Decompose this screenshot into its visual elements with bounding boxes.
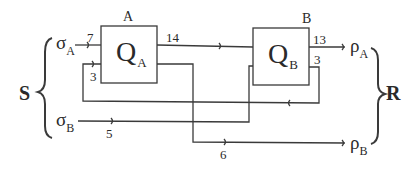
input-sigma-b: σB: [56, 110, 74, 134]
edge-sigmaB-to-B: [78, 66, 253, 122]
rate-A-B: 14: [166, 31, 179, 44]
edge-A-to-B: [157, 45, 253, 47]
input-sigma-a: σA: [56, 33, 75, 57]
left-brace: [38, 38, 52, 138]
rate-B-rhoA: 13: [313, 33, 326, 46]
rate-B-out3: 3: [314, 53, 321, 66]
node-a-label: A: [123, 10, 133, 24]
rate-sigmaA-A: 7: [87, 31, 94, 44]
queue-a-label: QA: [116, 38, 147, 69]
queue-b-label: QB: [268, 40, 298, 71]
rate-sigmaB-B: 5: [106, 127, 113, 140]
right-brace: [371, 48, 385, 144]
output-rho-b: ρB: [350, 133, 368, 157]
node-b-label: B: [302, 12, 311, 26]
rate-A-rhoB: 6: [220, 148, 227, 161]
output-rho-a: ρA: [350, 36, 368, 60]
group-s-label: S: [19, 83, 30, 103]
group-r-label: R: [386, 83, 400, 103]
rate-feedback-A: 3: [90, 70, 97, 83]
